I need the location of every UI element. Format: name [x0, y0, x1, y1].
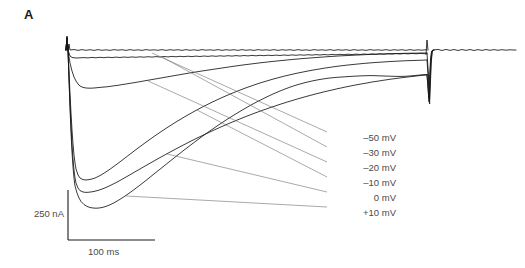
trace-minus-10-mv	[66, 38, 427, 180]
x-scale-bar-label: 100 ms	[88, 247, 119, 257]
trace-minus-50-mv	[66, 36, 427, 50]
series-label-minus-50-mv: –50 mV	[330, 133, 396, 143]
leader-line-group	[126, 53, 327, 207]
scale-bar-group	[68, 190, 155, 240]
leader-line-0-mv	[167, 154, 327, 192]
leader-line-minus-30-mv	[162, 57, 327, 147]
leader-line-minus-10-mv	[197, 110, 327, 177]
trace-group	[66, 36, 516, 208]
series-label-minus-20-mv: –20 mV	[330, 163, 396, 173]
leader-line-plus-10-mv	[126, 196, 327, 207]
series-label-plus-10-mv: +10 mV	[330, 208, 396, 218]
pulse-offset-spike	[426, 40, 428, 54]
series-label-minus-30-mv: –30 mV	[330, 148, 396, 158]
leader-line-minus-50-mv	[152, 53, 327, 132]
series-label-0-mv: 0 mV	[330, 193, 396, 203]
y-scale-bar-label: 250 nA	[26, 209, 64, 219]
figure-panel-a: A	[0, 0, 525, 268]
trace-minus-30-mv	[66, 37, 427, 58]
post-pulse-baseline	[434, 49, 516, 50]
series-label-minus-10-mv: –10 mV	[330, 178, 396, 188]
trace-plot	[0, 0, 525, 268]
